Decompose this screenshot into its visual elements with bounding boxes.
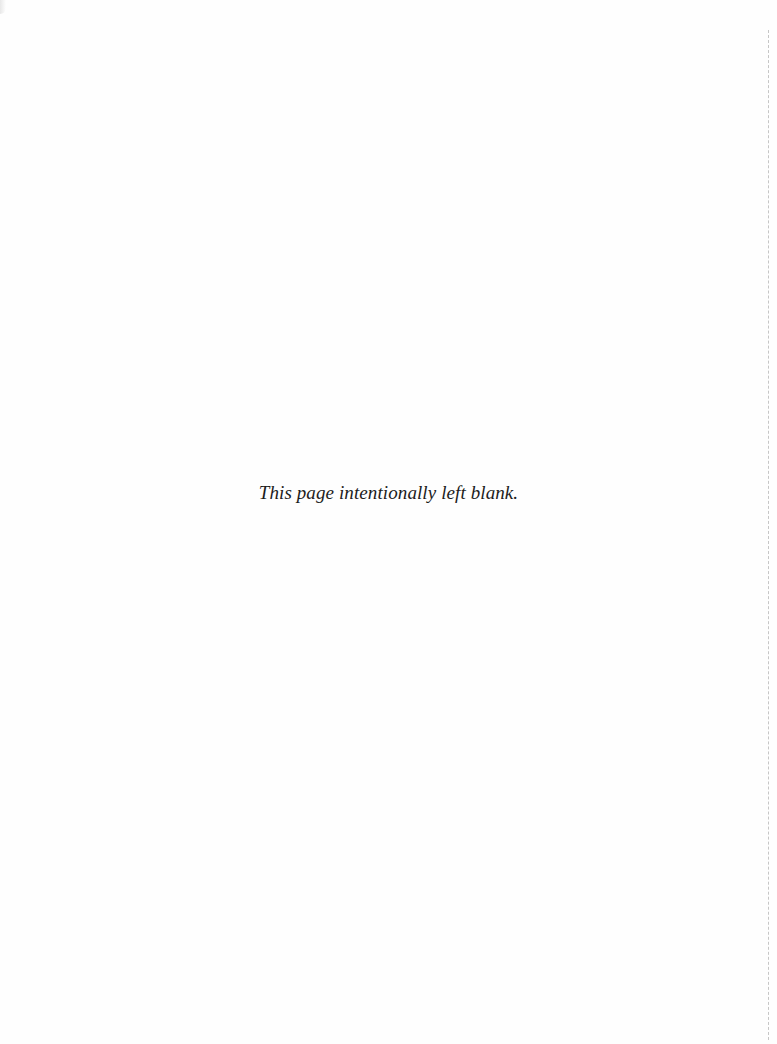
- page-corner-shadow: [0, 0, 6, 14]
- page-edge-binding-marks: [768, 30, 769, 1040]
- blank-page-notice: This page intentionally left blank.: [0, 482, 777, 504]
- document-page: This page intentionally left blank.: [0, 0, 777, 1044]
